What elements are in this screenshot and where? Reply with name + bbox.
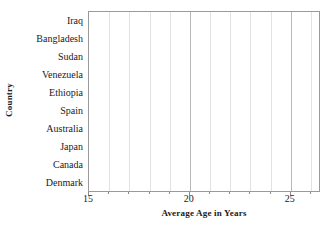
y-axis-title-label: Country bbox=[4, 83, 14, 117]
y-axis-tick-label: Denmark bbox=[46, 177, 86, 188]
y-axis-tick-label: Venezuela bbox=[42, 69, 86, 80]
y-axis-tick-label: Spain bbox=[60, 105, 86, 116]
x-axis-tick-label: 25 bbox=[285, 193, 295, 204]
x-axis-title: Average Age in Years bbox=[88, 208, 320, 218]
bar-chart: Country IraqBangladeshSudanVenezuelaEthi… bbox=[0, 0, 330, 227]
x-axis-tick-label: 20 bbox=[184, 193, 194, 204]
plot-area bbox=[88, 11, 320, 192]
y-axis-tick-label: Australia bbox=[46, 123, 86, 134]
y-axis-tick-label: Sudan bbox=[58, 51, 86, 62]
y-axis-tick-label: Bangladesh bbox=[36, 33, 86, 44]
y-axis-tick-label: Ethiopia bbox=[49, 87, 86, 98]
y-axis-tick-label: Canada bbox=[53, 159, 86, 170]
y-axis-tick-label: Iraq bbox=[67, 15, 86, 26]
y-axis-tick-label: Japan bbox=[60, 141, 86, 152]
x-axis-tick-label: 15 bbox=[83, 193, 93, 204]
y-axis-tick-labels: IraqBangladeshSudanVenezuelaEthiopiaSpai… bbox=[18, 11, 86, 192]
y-axis-title: Country bbox=[0, 0, 18, 200]
x-axis-tick-labels: 152025 bbox=[88, 193, 320, 207]
bars-layer bbox=[89, 12, 319, 191]
